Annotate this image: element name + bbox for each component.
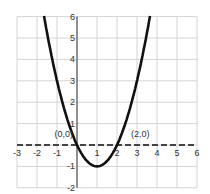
- y-tick-label: 4: [70, 54, 75, 64]
- x-tick-label: -3: [13, 148, 21, 158]
- y-tick-label: -2: [67, 183, 75, 193]
- y-tick-label: 5: [70, 33, 75, 43]
- x-tick-label: 5: [174, 148, 179, 158]
- y-tick-label: -1: [67, 161, 75, 171]
- point-label: (0,0): [54, 129, 73, 139]
- y-tick-label: 3: [70, 76, 75, 86]
- parabola-chart: -3-2-1123456654321-1-2(0,0)(2,0): [0, 0, 210, 194]
- x-tick-label: 4: [154, 148, 159, 158]
- x-tick-label: 6: [194, 148, 199, 158]
- y-tick-label: 6: [70, 12, 75, 22]
- x-tick-label: 1: [94, 148, 99, 158]
- x-tick-label: -2: [33, 148, 41, 158]
- point-label: (2,0): [131, 129, 150, 139]
- x-tick-label: -1: [53, 148, 61, 158]
- y-tick-label: 2: [70, 97, 75, 107]
- x-tick-label: 3: [134, 148, 139, 158]
